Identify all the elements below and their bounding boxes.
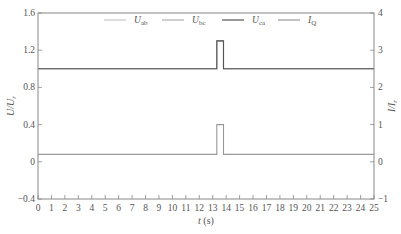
legend-label: Uab xyxy=(134,15,148,27)
y-right-tick-label: −1 xyxy=(378,194,388,204)
x-tick-label: 0 xyxy=(36,203,41,213)
x-tick-label: 20 xyxy=(302,203,312,213)
y-right-axis-label: I/Ir xyxy=(386,100,399,113)
x-tick-label: 24 xyxy=(356,203,366,213)
x-tick-label: 8 xyxy=(143,203,148,213)
y-right-tick-label: 1 xyxy=(378,120,383,130)
x-tick-label: 5 xyxy=(103,203,108,213)
legend-label: Ubc xyxy=(192,15,205,27)
x-tick-label: 13 xyxy=(208,203,218,213)
x-tick-label: 7 xyxy=(130,203,135,213)
y-left-tick-label: 0 xyxy=(30,157,35,167)
x-tick-label: 16 xyxy=(248,203,258,213)
y-left-tick-label: −0.4 xyxy=(18,194,35,204)
x-axis-label: t (s) xyxy=(198,215,214,227)
series-u-ca xyxy=(38,41,374,69)
x-tick-label: 11 xyxy=(181,203,190,213)
x-tick-label: 3 xyxy=(76,203,81,213)
y-left-axis-label: U/Ur xyxy=(5,96,18,116)
x-tick-label: 1 xyxy=(49,203,54,213)
x-tick-label: 19 xyxy=(289,203,299,213)
x-tick-label: 25 xyxy=(369,203,379,213)
series-i-q xyxy=(38,125,374,155)
legend: UabUbcUcaIQ xyxy=(104,15,316,27)
plot-series xyxy=(38,41,374,154)
x-tick-label: 4 xyxy=(89,203,94,213)
x-tick-label: 14 xyxy=(221,203,231,213)
x-tick-label: 15 xyxy=(235,203,245,213)
x-tick-label: 10 xyxy=(168,203,178,213)
y-left-tick-label: 1.6 xyxy=(23,8,35,18)
x-tick-label: 18 xyxy=(275,203,285,213)
legend-label: Uca xyxy=(252,15,266,27)
x-tick-label: 17 xyxy=(262,203,272,213)
y-right-tick-label: 4 xyxy=(378,8,383,18)
y-left-tick-label: 0.4 xyxy=(23,120,35,130)
x-tick-label: 12 xyxy=(195,203,205,213)
y-right-tick-label: 2 xyxy=(378,82,383,92)
x-tick-label: 23 xyxy=(342,203,352,213)
x-tick-label: 9 xyxy=(157,203,162,213)
y-right-tick-label: 0 xyxy=(378,157,383,167)
x-tick-label: 21 xyxy=(315,203,325,213)
plot-axes: 0123456789101112131415161718192021222324… xyxy=(18,8,389,213)
y-left-tick-label: 1.2 xyxy=(23,45,35,55)
series-u-bc xyxy=(38,41,374,69)
y-right-tick-label: 3 xyxy=(378,45,383,55)
x-tick-label: 22 xyxy=(329,203,339,213)
plot-frame xyxy=(38,13,374,199)
y-left-tick-label: 0.8 xyxy=(23,82,35,92)
chart: 0123456789101112131415161718192021222324… xyxy=(0,0,401,234)
x-tick-label: 2 xyxy=(63,203,68,213)
series-u-ab xyxy=(38,41,374,69)
legend-label: IQ xyxy=(307,15,316,27)
x-tick-label: 6 xyxy=(116,203,121,213)
